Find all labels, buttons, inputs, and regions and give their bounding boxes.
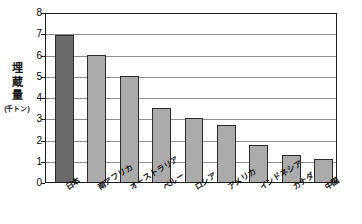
y-axis-title: 埋 蔵 量 (千トン) <box>2 62 32 113</box>
bars-layer <box>46 14 336 182</box>
y-axis-title-char-1: 蔵 <box>2 76 32 90</box>
bar <box>55 35 74 182</box>
y-axis-title-char-2: 量 <box>2 89 32 103</box>
plot-area <box>45 13 337 183</box>
bar <box>87 55 106 183</box>
bar <box>185 118 204 182</box>
y-axis-title-char-0: 埋 <box>2 62 32 76</box>
bar-chart: 埋 蔵 量 (千トン) 012345678 日本南アフリカオーストラリアペルーロ… <box>0 0 362 224</box>
y-axis-unit-label: (千トン) <box>2 104 32 113</box>
x-axis-category-labels: 日本南アフリカオーストラリアペルーロシアアメリカインドネシアカナダ中国 <box>45 184 337 224</box>
bar <box>217 125 236 182</box>
